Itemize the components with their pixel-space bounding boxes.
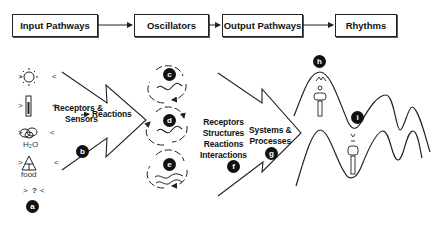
- figure-trough-icon: [348, 134, 358, 174]
- food-caption: food: [21, 170, 37, 179]
- bracket-right: <: [52, 72, 57, 81]
- figure-peak-icon: [314, 77, 326, 116]
- badge-g: g: [265, 147, 278, 160]
- badge-e: e: [163, 158, 176, 171]
- food-pyramid-icon: [22, 156, 36, 170]
- badge-b: b: [76, 145, 89, 158]
- rhythm-wave-lower: [296, 130, 422, 186]
- bracket-left: >: [18, 128, 23, 137]
- bracket-left: >: [18, 72, 23, 81]
- water-caption: H₂O: [23, 140, 38, 149]
- output-components-label: Receptors Structures Reactions Interacti…: [200, 117, 247, 161]
- badge-c: c: [163, 68, 176, 81]
- bracket-left: >: [18, 101, 23, 110]
- reactions-label: Reactions: [92, 109, 132, 120]
- unknown-stimulus: ?: [32, 186, 37, 195]
- bracket-right: <: [54, 158, 59, 167]
- bracket-left: >: [23, 186, 28, 195]
- bracket-right: <: [40, 186, 45, 195]
- bracket-left: >: [18, 158, 23, 167]
- bracket-right: <: [50, 128, 55, 137]
- thermometer-icon: [26, 96, 31, 116]
- badge-f: f: [227, 160, 240, 173]
- badge-a: a: [26, 200, 39, 213]
- badge-h: h: [313, 55, 326, 68]
- systems-processes-label: Systems & Processes: [249, 125, 292, 147]
- badge-d: d: [163, 114, 176, 127]
- badge-i: i: [351, 111, 364, 124]
